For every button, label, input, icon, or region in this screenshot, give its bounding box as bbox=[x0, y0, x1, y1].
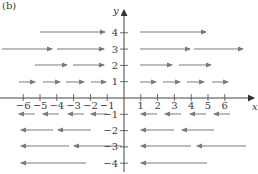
y-tick-label: 1 bbox=[112, 76, 118, 87]
x-tick-label: 3 bbox=[171, 100, 177, 111]
x-tick-label: 6 bbox=[222, 100, 228, 111]
x-tick-label: 2 bbox=[154, 100, 160, 111]
x-tick-label: 1 bbox=[138, 100, 144, 111]
x-tick-label: −4 bbox=[49, 100, 64, 111]
panel-label: (b) bbox=[2, 0, 16, 11]
x-tick-label: 5 bbox=[205, 100, 211, 111]
x-axis-label: x bbox=[252, 101, 258, 112]
y-tick-label: −4 bbox=[103, 158, 118, 169]
x-tick-label: −5 bbox=[33, 100, 48, 111]
y-tick-label: −2 bbox=[103, 125, 118, 136]
y-tick-label: 3 bbox=[112, 44, 118, 55]
x-tick-label: −2 bbox=[83, 100, 98, 111]
vector-field-plot: (b) x y −6−5−4−3−2−1123456 4321−1−2−3−4 bbox=[0, 0, 258, 174]
x-tick-label: −3 bbox=[66, 100, 81, 111]
y-tick-label: 4 bbox=[112, 27, 118, 38]
y-axis-label: y bbox=[112, 5, 119, 16]
y-tick-label: 2 bbox=[112, 60, 118, 71]
x-tick-label: −6 bbox=[16, 100, 31, 111]
y-tick-label: −1 bbox=[103, 109, 118, 120]
x-tick-label: 4 bbox=[188, 100, 194, 111]
y-tick-label: −3 bbox=[103, 141, 118, 152]
x-axis-ticks: −6−5−4−3−2−1123456 bbox=[16, 94, 228, 111]
